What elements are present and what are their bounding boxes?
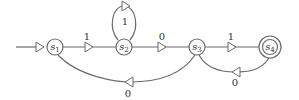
edge-label: 1 [84, 31, 90, 42]
arrowhead-icon [36, 42, 44, 52]
arrowhead-icon [232, 67, 240, 77]
edge-label: 0 [159, 31, 165, 42]
arrowhead-icon [125, 77, 133, 87]
edge-s2-s2: 1 [112, 1, 135, 40]
edge-s3-s1: 0 [58, 55, 195, 99]
edge-label: 1 [122, 16, 128, 27]
arrowhead-icon [122, 1, 130, 11]
state-s2: s2 [116, 39, 132, 55]
arrowhead-icon [85, 42, 93, 52]
edge-s4-s3: 0 [199, 55, 269, 88]
arrowhead-icon [158, 42, 166, 52]
state-s3: s3 [189, 39, 205, 55]
edge-label: 0 [232, 77, 238, 88]
edge-s1-s2: 1 [63, 31, 116, 52]
edge-label: 1 [228, 31, 234, 42]
edge-label: 0 [125, 88, 131, 99]
edge-s3-s4: 1 [205, 31, 260, 52]
fsm-diagram: 1 1 0 1 0 0 s1 s2 s3 [0, 0, 299, 100]
edge-s2-s3: 0 [132, 31, 189, 52]
state-s4-accepting: s4 [259, 36, 281, 58]
state-s1: s1 [47, 39, 63, 55]
start-arrow [16, 42, 44, 52]
arrowhead-icon [228, 42, 236, 52]
